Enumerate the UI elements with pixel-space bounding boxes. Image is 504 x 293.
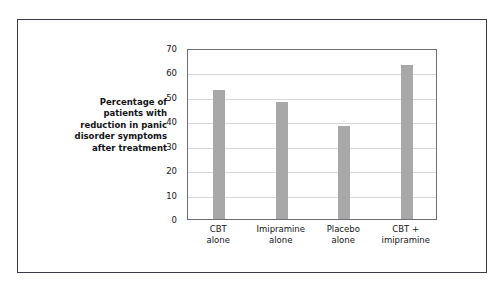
x-axis-category-label-line: imipramine — [370, 235, 442, 246]
y-axis-tick-label: 10 — [166, 191, 177, 201]
bar-chart-figure: Percentage ofpatients withreduction in p… — [0, 0, 504, 293]
y-axis-tick-label: 40 — [166, 117, 177, 127]
x-axis-category-label-line: alone — [307, 235, 379, 246]
x-axis-category-label-line: alone — [245, 235, 317, 246]
y-axis-tick-label: 70 — [166, 44, 177, 54]
x-axis-category-label: CBT +imipramine — [370, 224, 442, 246]
bar — [213, 90, 225, 219]
bars-layer — [188, 50, 436, 219]
y-axis-tick-label: 50 — [166, 93, 177, 103]
x-axis-category-label-line: alone — [182, 235, 254, 246]
y-axis-tick-label: 0 — [172, 215, 177, 225]
y-axis-tick-label: 30 — [166, 142, 177, 152]
y-axis-tick-labels: 706050403020100 — [150, 49, 182, 220]
x-axis-category-label: Imipraminealone — [245, 224, 317, 246]
x-axis-category-label: Placeboalone — [307, 224, 379, 246]
x-axis-category-labels: CBTaloneImipraminealonePlaceboaloneCBT +… — [187, 224, 437, 254]
x-axis-category-label-line: Placebo — [307, 224, 379, 235]
bar — [338, 126, 350, 219]
x-axis-category-label-line: Imipramine — [245, 224, 317, 235]
x-axis-category-label-line: CBT + — [370, 224, 442, 235]
plot-area — [187, 49, 437, 220]
bar — [276, 102, 288, 219]
bar — [401, 65, 413, 219]
y-axis-tick-label: 20 — [166, 166, 177, 176]
x-axis-category-label: CBTalone — [182, 224, 254, 246]
x-axis-category-label-line: CBT — [182, 224, 254, 235]
y-axis-tick-label: 60 — [166, 68, 177, 78]
